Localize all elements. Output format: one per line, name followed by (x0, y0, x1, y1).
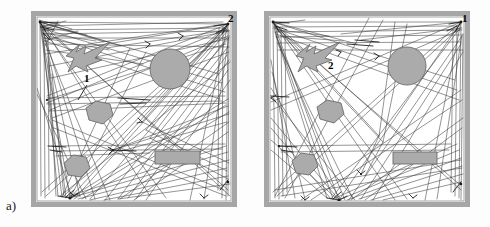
rectangle-obstacle (393, 152, 437, 164)
panel-b: 2 1 b) (245, 0, 490, 227)
marker-2-label: 2 (328, 59, 334, 71)
panel-a: 1 2 a) (0, 0, 245, 227)
marker-1-label: 1 (84, 72, 90, 84)
circle-obstacle (150, 49, 190, 89)
panel-a-scene: 1 2 (0, 0, 245, 227)
marker-1-label: 1 (462, 12, 468, 24)
panel-b-scene: 2 1 (245, 0, 490, 227)
rectangle-obstacle (155, 151, 200, 164)
marker-2-label: 2 (228, 12, 234, 24)
figure-root: 1 2 a) (0, 0, 490, 227)
circle-obstacle (388, 47, 426, 85)
panel-a-caption: a) (6, 198, 16, 214)
